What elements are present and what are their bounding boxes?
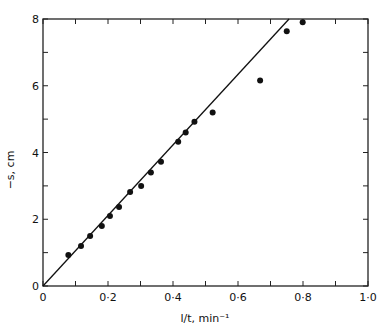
data-point	[116, 204, 122, 210]
chart: 00·20·40·60·81·002468 l/t, min⁻¹ −s, cm	[0, 0, 391, 332]
data-point	[191, 119, 197, 125]
y-axis-label: −s, cm	[4, 151, 17, 190]
x-tick-label: 0·2	[99, 291, 117, 304]
x-axis-label: l/t, min⁻¹	[180, 312, 229, 325]
axis-tick-labels: 00·20·40·60·81·002468	[32, 13, 377, 304]
axis-ticks	[43, 19, 368, 286]
y-tick-label: 8	[32, 13, 39, 26]
data-point	[300, 19, 306, 25]
y-tick-label: 0	[32, 280, 39, 293]
y-tick-label: 4	[32, 147, 39, 160]
data-point	[284, 28, 290, 34]
data-point	[138, 183, 144, 189]
x-tick-label: 0	[40, 291, 47, 304]
data-point	[99, 223, 105, 229]
data-point	[183, 129, 189, 135]
data-point	[107, 213, 113, 219]
x-tick-label: 1·0	[359, 291, 377, 304]
data-point	[158, 159, 164, 165]
y-tick-label: 2	[32, 213, 39, 226]
data-point	[257, 77, 263, 83]
data-point	[87, 233, 93, 239]
data-point	[65, 252, 71, 258]
data-point	[175, 139, 181, 145]
y-tick-label: 6	[32, 80, 39, 93]
plot-frame	[43, 19, 368, 286]
x-tick-label: 0·6	[229, 291, 247, 304]
data-point	[148, 170, 154, 176]
data-point	[210, 109, 216, 115]
data-point	[127, 189, 133, 195]
x-tick-label: 0·4	[164, 291, 182, 304]
data-point	[78, 243, 84, 249]
x-tick-label: 0·8	[294, 291, 312, 304]
